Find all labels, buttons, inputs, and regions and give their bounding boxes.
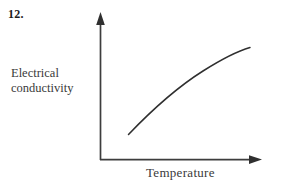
x-axis-arrowhead-icon <box>249 155 262 164</box>
y-axis-arrowhead-icon <box>96 12 105 25</box>
data-curve <box>129 48 251 135</box>
plot-area <box>0 0 289 191</box>
figure-container: 12. Electrical conductivity Temperature <box>0 0 289 191</box>
x-axis-label: Temperature <box>146 165 215 181</box>
